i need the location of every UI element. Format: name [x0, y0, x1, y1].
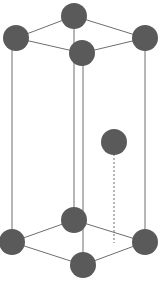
- atom-top-front: [69, 40, 95, 66]
- atom-bottom-left: [0, 229, 25, 255]
- atom-top-right: [132, 25, 158, 51]
- atom-interior: [101, 129, 127, 155]
- atom-top-back: [61, 3, 87, 29]
- atom-top-left: [3, 25, 29, 51]
- atom-bottom-front: [70, 252, 96, 278]
- atom-bottom-back: [61, 207, 87, 233]
- atom-bottom-right: [132, 229, 158, 255]
- atoms: [0, 3, 158, 278]
- unit-cell-diagram: [0, 0, 164, 284]
